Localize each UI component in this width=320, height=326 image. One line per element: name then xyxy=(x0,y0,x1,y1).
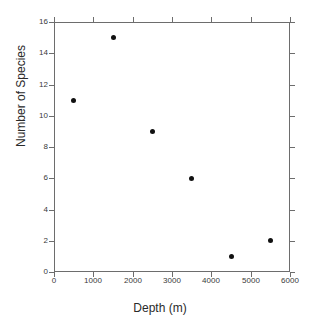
x-axis-tick-label: 2000 xyxy=(113,277,153,285)
scatter-plot-figure: 0246810121416 0100020003000400050006000 … xyxy=(0,0,320,326)
y-axis-tick xyxy=(49,22,54,23)
y-axis-tick xyxy=(290,53,295,54)
y-axis-tick-label: 8 xyxy=(44,143,48,151)
y-axis-tick xyxy=(290,85,295,86)
y-axis-tick xyxy=(290,147,295,148)
x-axis-tick xyxy=(251,17,252,22)
y-axis-tick-label: 10 xyxy=(39,112,48,120)
y-axis-tick-label: 16 xyxy=(39,18,48,26)
y-axis-tick xyxy=(290,22,295,23)
y-axis-tick-label: 4 xyxy=(44,206,48,214)
data-point-marker xyxy=(229,254,234,259)
y-axis-tick xyxy=(290,116,295,117)
x-axis-tick-label: 5000 xyxy=(231,277,271,285)
data-point-marker xyxy=(71,98,76,103)
y-axis-tick-label: 6 xyxy=(44,174,48,182)
y-axis-tick xyxy=(290,210,295,211)
data-point-marker xyxy=(150,129,155,134)
x-axis-tick-label: 0 xyxy=(34,277,74,285)
x-axis-tick-label: 1000 xyxy=(73,277,113,285)
x-axis-tick-label: 3000 xyxy=(152,277,192,285)
x-axis-tick-label: 6000 xyxy=(270,277,310,285)
y-axis-tick xyxy=(49,178,54,179)
x-axis-tick xyxy=(172,17,173,22)
y-axis-tick-label: 0 xyxy=(44,268,48,276)
x-axis-tick xyxy=(133,17,134,22)
y-axis-tick-label: 14 xyxy=(39,49,48,57)
y-axis-tick xyxy=(49,241,54,242)
data-point-marker xyxy=(111,35,116,40)
y-axis-tick xyxy=(49,53,54,54)
y-axis-tick xyxy=(290,178,295,179)
y-axis-tick-label: 12 xyxy=(39,81,48,89)
y-axis-tick xyxy=(290,241,295,242)
x-axis-tick xyxy=(290,17,291,22)
x-axis-tick xyxy=(93,17,94,22)
plot-area-frame xyxy=(54,22,290,272)
x-axis-tick-label: 4000 xyxy=(191,277,231,285)
x-axis-tick xyxy=(54,17,55,22)
x-axis-title: Depth (m) xyxy=(0,301,320,315)
y-axis-tick xyxy=(49,147,54,148)
y-axis-tick xyxy=(49,85,54,86)
y-axis-tick-label: 2 xyxy=(44,237,48,245)
y-axis-tick xyxy=(49,210,54,211)
y-axis-title: Number of Species xyxy=(14,45,28,147)
x-axis-tick xyxy=(211,17,212,22)
data-point-marker xyxy=(189,176,194,181)
y-axis-tick xyxy=(49,116,54,117)
